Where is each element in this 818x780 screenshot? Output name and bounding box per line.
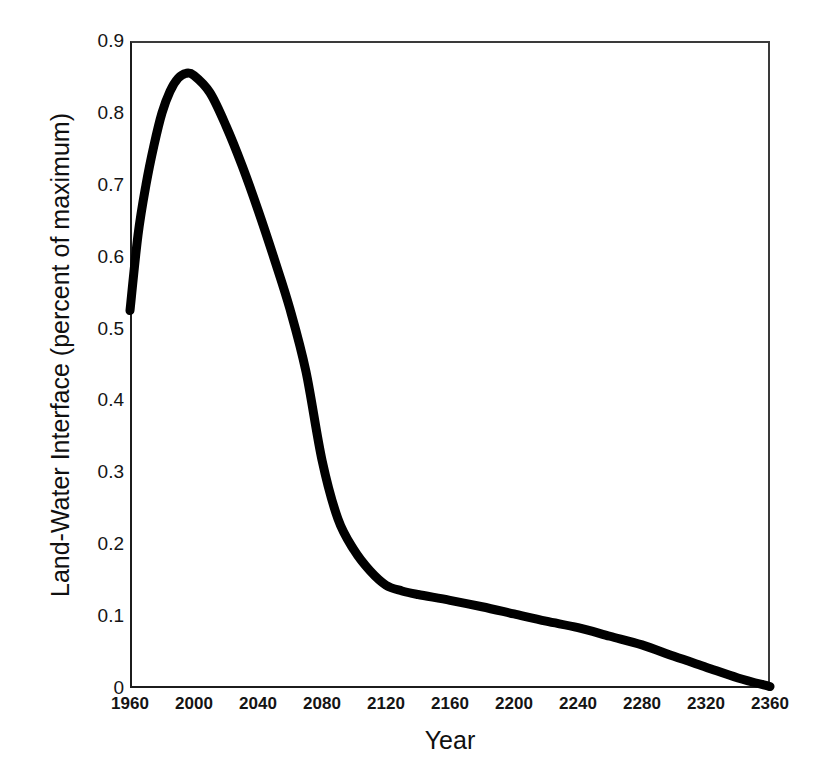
x-tick-label: 2160 — [415, 694, 485, 714]
x-tick-label: 2320 — [671, 694, 741, 714]
x-tick-label: 2000 — [159, 694, 229, 714]
x-tick-label: 1960 — [95, 694, 165, 714]
y-tick-label: 0.1 — [80, 605, 124, 627]
x-tick-label: 2360 — [735, 694, 805, 714]
y-tick-label: 0.3 — [80, 461, 124, 483]
y-tick-label: 0.8 — [80, 102, 124, 124]
y-tick-label: 0.4 — [80, 389, 124, 411]
data-curve-svg — [130, 41, 770, 688]
x-tick-label: 2240 — [543, 694, 613, 714]
y-tick-labels: 00.10.20.30.40.50.60.70.80.9 — [74, 0, 124, 780]
x-tick-label: 2080 — [287, 694, 357, 714]
chart-figure: Land-Water Interface (percent of maximum… — [0, 0, 818, 780]
y-tick-label: 0.6 — [80, 246, 124, 268]
series-line-land-water-interface — [130, 73, 770, 687]
x-tick-label: 2200 — [479, 694, 549, 714]
y-tick-label: 0.5 — [80, 318, 124, 340]
x-tick-label: 2040 — [223, 694, 293, 714]
x-axis-title: Year — [130, 726, 770, 755]
y-tick-label: 0.7 — [80, 174, 124, 196]
y-tick-label: 0.2 — [80, 533, 124, 555]
y-tick-label: 0.9 — [80, 30, 124, 52]
x-tick-label: 2120 — [351, 694, 421, 714]
x-tick-label: 2280 — [607, 694, 677, 714]
